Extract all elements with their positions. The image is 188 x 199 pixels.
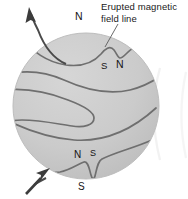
pole-label-s-eruption-left: S [101, 61, 107, 71]
callout-text-line2: field line [101, 13, 187, 25]
outflow-arrowhead [26, 7, 37, 23]
pole-label-s-bottom-right: S [90, 148, 96, 158]
pole-label-n-top: N [75, 11, 83, 21]
inflow-arrow-group [26, 168, 50, 194]
pole-label-s-outside: S [78, 182, 85, 192]
figure-canvas [0, 0, 188, 199]
callout-text-line1: Erupted magnetic [101, 1, 177, 12]
callout-text: Erupted magnetic field line [101, 1, 187, 24]
star-sphere [13, 33, 159, 179]
inflow-arrow-tail [26, 178, 41, 194]
magnetic-field-figure: Erupted magnetic field line N S N N S S [0, 0, 188, 199]
pole-label-n-bottom-left: N [74, 150, 81, 160]
pole-label-n-eruption-right: N [116, 59, 124, 69]
